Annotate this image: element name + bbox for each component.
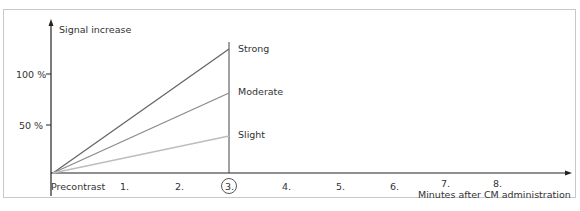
x-tick-label-6: 6. — [390, 181, 399, 192]
y-axis-arrow-icon — [49, 19, 54, 26]
x-axis-arrow-icon — [565, 171, 572, 176]
x-tick-label-5: 5. — [336, 181, 345, 192]
signal-curve-chart: Signal increase 100 % 50 % Strong Modera… — [0, 0, 580, 211]
x-tick-label-precontrast: Precontrast — [51, 181, 106, 192]
x-tick-label-1: 1. — [120, 181, 129, 192]
y-axis-label: Signal increase — [59, 24, 131, 35]
series-label-strong: Strong — [238, 43, 269, 54]
series-label-slight: Slight — [238, 129, 265, 140]
series-moderate-line — [53, 93, 229, 173]
y-tick-label-100: 100 % — [16, 69, 46, 80]
x-tick-label-8: 8. — [493, 178, 502, 189]
series-label-moderate: Moderate — [238, 86, 283, 97]
x-tick-label-4: 4. — [282, 181, 291, 192]
x-tick-label-3: 3. — [225, 181, 234, 192]
x-axis-label: Minutes after CM administration — [418, 189, 571, 200]
x-tick-label-7: 7. — [441, 178, 450, 189]
y-tick-label-50: 50 % — [19, 120, 43, 131]
x-tick-label-2: 2. — [175, 181, 184, 192]
